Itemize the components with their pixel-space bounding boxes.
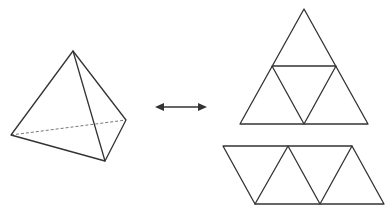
hidden-edge-back (11, 120, 126, 135)
net-strip-zigzag (255, 146, 352, 204)
tetrahedron (11, 51, 126, 161)
net-triangle-inner (272, 66, 336, 124)
net-triangle (240, 9, 368, 124)
tetrahedron-outline (11, 51, 126, 161)
double-arrow-icon (155, 103, 207, 111)
tetrahedron-net-diagram (0, 0, 391, 215)
arrow-head-left (155, 103, 164, 111)
tetrahedron-front-edge (73, 51, 105, 161)
arrow-head-right (198, 103, 207, 111)
net-strip (223, 146, 384, 204)
